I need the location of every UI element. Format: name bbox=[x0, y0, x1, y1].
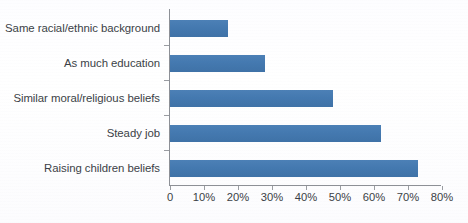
y-axis-tick-0 bbox=[164, 45, 169, 46]
category-label-3: Steady job bbox=[107, 126, 160, 141]
y-axis-tick-3 bbox=[164, 150, 169, 151]
x-axis-tick-label-1: 10% bbox=[193, 191, 215, 203]
bar-1 bbox=[170, 55, 265, 72]
category-label-0: Same racial/ethnic background bbox=[5, 21, 160, 36]
x-axis-tick-6 bbox=[374, 186, 375, 190]
x-axis-tick-1 bbox=[204, 186, 205, 190]
x-axis-tick-4 bbox=[306, 186, 307, 190]
x-axis-tick-5 bbox=[340, 186, 341, 190]
bar-2 bbox=[170, 90, 333, 107]
x-axis-tick-8 bbox=[442, 186, 443, 190]
x-axis-tick-label-5: 50% bbox=[329, 191, 351, 203]
y-axis-tick-1 bbox=[164, 80, 169, 81]
category-label-column: Same racial/ethnic background As much ed… bbox=[0, 10, 166, 185]
bar-3 bbox=[170, 125, 381, 142]
x-axis-line bbox=[169, 185, 441, 186]
bar-chart: Same racial/ethnic background As much ed… bbox=[0, 0, 468, 223]
bar-0 bbox=[170, 20, 228, 37]
x-axis-tick-0 bbox=[170, 186, 171, 190]
y-axis-line bbox=[169, 9, 170, 186]
bar-4 bbox=[170, 160, 418, 177]
x-axis-tick-label-2: 20% bbox=[227, 191, 249, 203]
x-axis-tick-3 bbox=[272, 186, 273, 190]
y-axis-tick-2 bbox=[164, 115, 169, 116]
x-axis-tick-label-4: 40% bbox=[295, 191, 317, 203]
x-axis-tick-2 bbox=[238, 186, 239, 190]
category-label-4: Raising children beliefs bbox=[44, 161, 160, 176]
x-axis-tick-label-6: 60% bbox=[363, 191, 385, 203]
x-axis-tick-label-8: 80% bbox=[431, 191, 453, 203]
plot-area bbox=[170, 10, 460, 185]
x-axis-tick-label-0: 0 bbox=[167, 191, 173, 203]
x-axis-tick-label-7: 70% bbox=[397, 191, 419, 203]
x-axis-tick-7 bbox=[408, 186, 409, 190]
category-label-2: Similar moral/religious beliefs bbox=[13, 91, 160, 106]
category-label-1: As much education bbox=[64, 56, 160, 71]
x-axis-tick-label-3: 30% bbox=[261, 191, 283, 203]
